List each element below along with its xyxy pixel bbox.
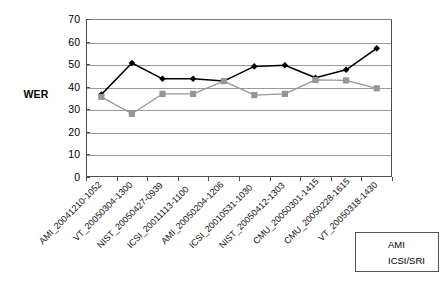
y-axis-tick-label: 70 <box>56 14 80 24</box>
y-axis-tick-mark <box>86 42 90 43</box>
y-axis-title: WER <box>14 88 58 100</box>
gridline <box>87 43 391 44</box>
gridline <box>87 65 391 66</box>
y-axis-tick-mark <box>86 87 90 88</box>
y-axis-tick-label: 30 <box>56 104 80 114</box>
legend-item-icsi-sri: ICSI/SRI <box>360 252 434 268</box>
gridline <box>87 155 391 156</box>
y-axis-tick-label: 60 <box>56 37 80 47</box>
wer-line-chart: WER 706050403020100 AMI_20041210-1052VT_… <box>0 0 445 290</box>
legend-item-ami: AMI <box>360 236 434 252</box>
legend-key-square-icon <box>360 253 386 267</box>
legend-label-icsi-sri: ICSI/SRI <box>386 255 425 266</box>
gridline <box>87 88 391 89</box>
plot-area <box>86 19 392 177</box>
y-axis-tick-label: 50 <box>56 59 80 69</box>
y-axis-tick-label: 20 <box>56 127 80 137</box>
legend-label-ami: AMI <box>386 239 405 250</box>
y-axis-tick-label: 10 <box>56 149 80 159</box>
gridline <box>87 133 391 134</box>
legend-key-diamond-icon <box>360 237 386 251</box>
y-axis-tick-mark <box>86 132 90 133</box>
y-axis-tick-mark <box>86 64 90 65</box>
y-axis-tick-label: 40 <box>56 82 80 92</box>
gridline <box>87 110 391 111</box>
chart-legend: AMI ICSI/SRI <box>355 232 439 272</box>
y-axis-tick-mark <box>86 109 90 110</box>
y-axis-tick-mark <box>86 154 90 155</box>
y-axis-tick-labels: 706050403020100 <box>54 19 80 177</box>
y-axis-tick-mark <box>86 19 90 20</box>
